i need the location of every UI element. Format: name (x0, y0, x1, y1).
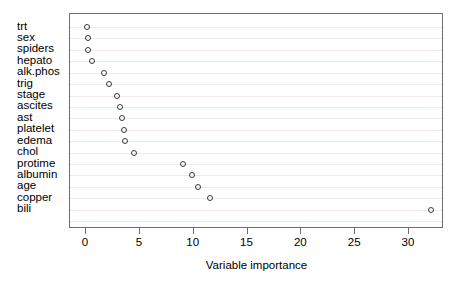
data-point (122, 138, 128, 144)
gridline (70, 164, 442, 165)
y-axis-label-sex: sex (0, 31, 62, 43)
y-axis-label-ast: ast (0, 111, 62, 123)
y-axis-label-platelet: platelet (0, 122, 62, 134)
gridline (70, 118, 442, 119)
data-point (207, 195, 213, 201)
data-point (117, 104, 123, 110)
x-axis-tick (300, 228, 301, 234)
data-point (189, 172, 195, 178)
x-axis-tick (247, 228, 248, 234)
gridline (70, 27, 442, 28)
y-axis-label-text: chol (0, 145, 38, 157)
data-point (89, 58, 95, 64)
y-axis-label-text: albumin (0, 168, 57, 180)
data-point (180, 161, 186, 167)
y-axis-label-bili: bili (0, 202, 62, 214)
data-point (428, 207, 434, 213)
gridline (70, 175, 442, 176)
gridline (70, 61, 442, 62)
y-axis-label-trt: trt (0, 20, 62, 32)
data-point (101, 70, 107, 76)
y-axis-label-age: age (0, 179, 62, 191)
gridline (70, 198, 442, 199)
gridline (70, 153, 442, 154)
y-axis-label-chol: chol (0, 145, 62, 157)
data-point (119, 115, 125, 121)
x-axis-tick-label: 10 (173, 236, 213, 249)
x-axis-tick-label: 15 (227, 236, 267, 249)
y-axis-label-edema: edema (0, 134, 62, 146)
y-axis-category-labels: trtsexspidershepatoalk.phostrigstageasci… (0, 13, 66, 228)
variable-importance-dotplot: trtsexspidershepatoalk.phostrigstageasci… (0, 0, 463, 288)
y-axis-label-text: age (0, 179, 36, 191)
y-axis-label-text: hepato (0, 54, 52, 66)
y-axis-label-text: copper (0, 191, 52, 203)
y-axis-label-text: platelet (0, 122, 54, 134)
gridline (70, 210, 442, 211)
y-axis-label-text: ast (0, 111, 32, 123)
y-axis-label-text: bili (0, 202, 31, 214)
x-axis-tick-label: 20 (280, 236, 320, 249)
y-axis-label-spiders: spiders (0, 42, 62, 54)
data-point (131, 150, 137, 156)
data-point (85, 47, 91, 53)
data-point (121, 127, 127, 133)
x-axis-tick-label: 5 (119, 236, 159, 249)
y-axis-label-protime: protime (0, 157, 62, 169)
gridline (70, 84, 442, 85)
gridline (70, 221, 442, 222)
gridline (70, 187, 442, 188)
y-axis-label-stage: stage (0, 88, 62, 100)
x-axis-tick-label: 30 (388, 236, 428, 249)
y-axis-label-text: spiders (0, 42, 54, 54)
x-axis-tick-label: 0 (65, 236, 105, 249)
y-axis-label-albumin: albumin (0, 168, 62, 180)
y-axis-label-copper: copper (0, 191, 62, 203)
y-axis-label-text: alk.phos (0, 65, 60, 77)
x-axis-tick (139, 228, 140, 234)
x-axis-title-text: Variable importance (156, 258, 307, 272)
y-axis-label-text: trt (0, 20, 27, 32)
plot-area (69, 13, 443, 228)
data-point (84, 24, 90, 30)
gridline (70, 38, 442, 39)
gridline (70, 107, 442, 108)
y-axis-label-text: ascites (0, 99, 53, 111)
y-axis-label-text: protime (0, 157, 55, 169)
x-axis-tick (408, 228, 409, 234)
y-axis-label-ascites: ascites (0, 99, 62, 111)
data-point (114, 93, 120, 99)
x-axis-tick (85, 228, 86, 234)
y-axis-label-alk-phos: alk.phos (0, 65, 62, 77)
data-point (85, 35, 91, 41)
gridline (70, 50, 442, 51)
y-axis-label-text: stage (0, 88, 45, 100)
y-axis-label-text: sex (0, 31, 35, 43)
gridline (70, 73, 442, 74)
x-axis-tick-label: 25 (334, 236, 374, 249)
x-axis-tick (193, 228, 194, 234)
y-axis-label-text: edema (0, 134, 52, 146)
x-axis-tick (354, 228, 355, 234)
y-axis-label-hepato: hepato (0, 54, 62, 66)
gridline (70, 96, 442, 97)
y-axis-label-trig: trig (0, 77, 62, 89)
x-axis-title: Variable importance (0, 258, 463, 272)
y-axis-label-text: trig (0, 77, 33, 89)
data-point (195, 184, 201, 190)
data-point (106, 81, 112, 87)
